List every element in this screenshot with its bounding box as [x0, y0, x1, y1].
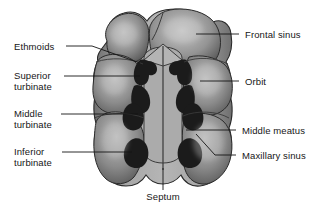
label-orbit: Orbit — [245, 76, 266, 87]
label-inferior-turbinate-line2: turbinate — [14, 157, 52, 168]
label-middle-meatus: Middle meatus — [242, 125, 305, 136]
label-middle-turbinate-line1: Middle — [14, 108, 43, 119]
label-maxillary-sinus: Maxillary sinus — [242, 150, 306, 161]
label-ethmoids: Ethmoids — [14, 41, 54, 52]
label-superior-turbinate-line1: Superior — [14, 70, 51, 81]
anatomy-figure-page: Ethmoids Superior turbinate Middle turbi… — [0, 0, 326, 210]
label-septum: Septum — [135, 191, 191, 202]
label-middle-turbinate-line2: turbinate — [14, 119, 52, 130]
label-superior-turbinate-line2: turbinate — [14, 81, 52, 92]
label-frontal-sinus: Frontal sinus — [245, 29, 301, 40]
label-inferior-turbinate-line1: Inferior — [14, 146, 44, 157]
